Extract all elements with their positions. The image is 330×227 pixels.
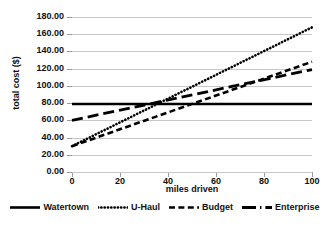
legend-label: Watertown: [43, 202, 89, 212]
line-chart: total cost ($) 0.0020.0040.0060.0080.001…: [0, 0, 330, 227]
y-tick-label: 20.00: [4, 149, 64, 159]
series-lines: [72, 17, 312, 172]
y-tick-label: 120.00: [4, 63, 64, 73]
plot-area: [72, 17, 312, 172]
y-tick-label: 160.00: [4, 28, 64, 38]
legend-item-enterprise[interactable]: Enterprise: [242, 202, 320, 212]
y-tick-label: 180.00: [4, 11, 64, 21]
x-axis-title: miles driven: [72, 184, 312, 194]
y-tick-label: 60.00: [4, 114, 64, 124]
legend-item-u-haul[interactable]: U-Haul: [98, 202, 160, 212]
y-tick-label: 100.00: [4, 80, 64, 90]
chart-title: [0, 0, 330, 1]
legend-item-watertown[interactable]: Watertown: [10, 202, 89, 212]
legend-item-budget[interactable]: Budget: [169, 202, 233, 212]
legend-label: Budget: [202, 202, 233, 212]
y-tick-label: 0.00: [4, 166, 64, 176]
gridline: [72, 172, 312, 173]
y-tick-label: 40.00: [4, 132, 64, 142]
chart-legend: WatertownU-HaulBudgetEnterprise: [0, 199, 330, 215]
legend-swatch-solid-icon: [10, 203, 40, 212]
legend-swatch-dashed-icon: [169, 203, 199, 212]
legend-swatch-long-dash-icon: [242, 203, 272, 212]
y-tick-label: 80.00: [4, 97, 64, 107]
series-line-enterprise: [72, 70, 312, 121]
y-tick-label: 140.00: [4, 45, 64, 55]
series-line-u-haul: [72, 27, 312, 146]
legend-label: U-Haul: [131, 202, 160, 212]
legend-label: Enterprise: [275, 202, 320, 212]
legend-swatch-dotted-icon: [98, 203, 128, 212]
